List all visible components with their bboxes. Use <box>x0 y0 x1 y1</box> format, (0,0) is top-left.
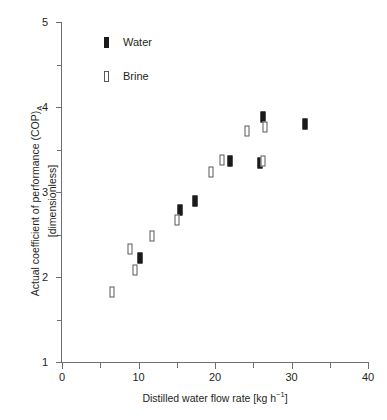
x-tick-major <box>292 363 293 369</box>
x-tick-label: 30 <box>285 372 297 383</box>
x-axis-ticks: 010203040 <box>62 363 369 375</box>
brine-marker-icon <box>104 71 109 82</box>
data-point-water <box>193 196 198 207</box>
y-axis-title-line1: Actual coefficient of performance (COP)A <box>29 106 41 296</box>
data-point-water <box>138 253 143 264</box>
data-point-water <box>228 156 233 167</box>
x-tick-minor <box>253 363 254 368</box>
legend-label-brine: Brine <box>123 68 149 84</box>
x-tick-label: 10 <box>132 372 144 383</box>
legend-item-water: Water <box>104 34 224 68</box>
scatter-chart-figure: 12345 010203040 Water Brine Distilled wa… <box>0 0 387 420</box>
x-tick-minor <box>100 363 101 368</box>
y-axis-title: Actual coefficient of performance (COP)A… <box>29 71 59 331</box>
water-marker-icon <box>104 37 109 48</box>
x-tick-major <box>139 363 140 369</box>
x-tick-minor <box>330 363 331 368</box>
data-point-brine <box>110 287 115 298</box>
x-tick-minor <box>177 363 178 368</box>
y-tick-label: 5 <box>42 17 48 28</box>
data-point-brine <box>149 231 154 242</box>
x-axis-title: Distilled water flow rate [kg h−1] <box>62 390 368 404</box>
data-point-brine <box>133 265 138 276</box>
data-point-brine <box>174 215 179 226</box>
y-axis-title-line2: [dimensionless] <box>46 71 59 331</box>
data-point-water <box>303 119 308 130</box>
data-point-brine <box>128 243 133 254</box>
x-tick-major <box>62 363 63 369</box>
data-point-brine <box>219 154 224 165</box>
data-point-brine <box>245 125 250 136</box>
y-tick-label: 1 <box>42 357 48 368</box>
data-point-brine <box>261 155 266 166</box>
x-tick-label: 0 <box>59 372 65 383</box>
legend-label-water: Water <box>123 34 152 50</box>
x-tick-major <box>215 363 216 369</box>
chart-legend: Water Brine <box>104 34 224 102</box>
data-point-brine <box>262 122 267 133</box>
x-tick-label: 40 <box>362 372 374 383</box>
x-tick-label: 20 <box>209 372 221 383</box>
legend-item-brine: Brine <box>104 68 224 102</box>
x-tick-major <box>368 363 369 369</box>
data-point-brine <box>209 167 214 178</box>
